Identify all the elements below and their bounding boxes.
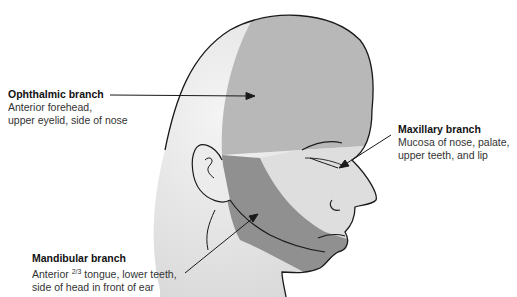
maxillary-label: Maxillary branch Mucosa of nose, palate,…	[398, 123, 510, 162]
fraction: 2/3	[72, 268, 82, 275]
mandibular-title: Mandibular branch	[32, 252, 177, 265]
ophthalmic-desc-2: upper eyelid, side of nose	[8, 114, 128, 127]
ophthalmic-title: Ophthalmic branch	[8, 88, 128, 101]
mandibular-label: Mandibular branch Anterior 2/3 tongue, l…	[32, 252, 177, 294]
maxillary-title: Maxillary branch	[398, 123, 510, 136]
ophthalmic-label: Ophthalmic branch Anterior forehead, upp…	[8, 88, 128, 127]
maxillary-desc-2: upper teeth, and lip	[398, 149, 510, 162]
maxillary-desc-1: Mucosa of nose, palate,	[398, 136, 510, 149]
mandibular-desc-1: Anterior 2/3 tongue, lower teeth,	[32, 265, 177, 281]
ophthalmic-desc-1: Anterior forehead,	[8, 101, 128, 114]
mandibular-desc-2: side of head in front of ear	[32, 281, 177, 294]
